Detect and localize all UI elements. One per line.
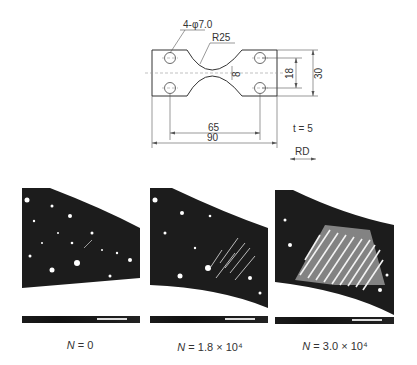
specimen-drawing: 4-φ7.0 R25 8 18 30 65 90 t = 5 RD xyxy=(0,0,417,180)
thickness-label: t = 5 xyxy=(293,123,313,134)
radius-label: R25 xyxy=(212,32,231,43)
outer-length-label: 90 xyxy=(207,132,219,143)
caption-n18e4: N = 1.8 × 10⁴ xyxy=(175,341,245,353)
hole-label: 4-φ7.0 xyxy=(183,19,213,30)
direction-label: RD xyxy=(295,146,309,157)
inner-height-label: 18 xyxy=(284,67,295,79)
gauge-width-label: 8 xyxy=(231,71,242,77)
scale-bar xyxy=(150,316,268,323)
outer-height-label: 30 xyxy=(313,67,324,79)
scale-bar xyxy=(275,317,394,324)
micrograph-n30e4 xyxy=(275,190,394,325)
micrograph-n18e4 xyxy=(150,188,268,323)
caption-n0: N = 0 xyxy=(60,339,100,351)
caption-n30e4: N = 3.0 × 10⁴ xyxy=(300,340,370,352)
scale-bar xyxy=(22,316,140,323)
micrograph-n0 xyxy=(22,188,140,323)
